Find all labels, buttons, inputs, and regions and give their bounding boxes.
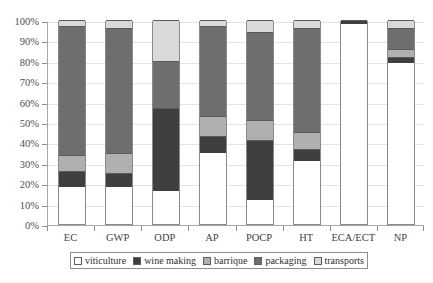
bar-segment-packaging <box>106 28 132 152</box>
x-axis-tick <box>236 226 237 231</box>
bar-np[interactable] <box>387 21 415 225</box>
legend-swatch-icon <box>74 257 82 265</box>
y-axis-label: 50% <box>0 118 39 129</box>
bar-gwp[interactable] <box>105 21 133 225</box>
bar-segment-viticulture <box>388 63 414 224</box>
bar-segment-transports <box>294 20 320 28</box>
bar-segment-viticulture <box>247 200 273 224</box>
bar-segment-transports <box>388 20 414 28</box>
bar-segment-barrique <box>388 49 414 57</box>
bar-segment-packaging <box>294 28 320 132</box>
x-axis: ECGWPODPAPPOCPHTECA/ECTNP <box>47 226 424 252</box>
y-axis-label: 10% <box>0 200 39 211</box>
legend-item-packaging[interactable]: packaging <box>254 255 306 266</box>
bar-segment-transports <box>59 20 85 26</box>
x-axis-label-np: NP <box>370 232 430 243</box>
bar-segment-barrique <box>247 120 273 140</box>
x-axis-tick <box>188 226 189 231</box>
bar-ec[interactable] <box>58 21 86 225</box>
legend-item-barrique[interactable]: barrique <box>203 255 247 266</box>
y-axis-label: 60% <box>0 98 39 109</box>
x-axis-tick <box>423 226 424 231</box>
y-axis-label: 40% <box>0 138 39 149</box>
bar-segment-viticulture <box>341 24 367 224</box>
legend-item-viticulture[interactable]: viticulture <box>74 255 126 266</box>
y-axis-label: 70% <box>0 77 39 88</box>
bar-segment-viticulture <box>153 191 179 224</box>
legend-swatch-icon <box>133 257 141 265</box>
bar-odp[interactable] <box>152 21 180 225</box>
bar-segment-wine-making <box>59 171 85 187</box>
bar-segment-viticulture <box>200 153 226 224</box>
bar-segment-wine-making <box>106 173 132 187</box>
stacked-bar-chart: 100%90%80%70%60%50%40%30%20%10%0% ECGWPO… <box>0 0 433 283</box>
chart-legend: viticulturewine makingbarriquepackagingt… <box>70 252 368 269</box>
legend-item-wine-making[interactable]: wine making <box>133 255 196 266</box>
bar-segment-barrique <box>106 153 132 173</box>
legend-label: barrique <box>214 255 247 266</box>
bar-segment-wine-making <box>247 140 273 199</box>
legend-label: wine making <box>144 255 196 266</box>
y-axis-label: 100% <box>0 16 39 27</box>
x-axis-tick <box>94 226 95 231</box>
bar-segment-wine-making <box>388 57 414 63</box>
chart-title <box>0 0 433 4</box>
bar-segment-packaging <box>200 26 226 116</box>
x-axis-tick <box>377 226 378 231</box>
legend-swatch-icon <box>314 257 322 265</box>
bar-ap[interactable] <box>199 21 227 225</box>
y-axis-label: 80% <box>0 57 39 68</box>
bar-segment-transports <box>200 20 226 26</box>
legend-label: packaging <box>265 255 306 266</box>
x-axis-tick <box>330 226 331 231</box>
bar-segment-viticulture <box>106 187 132 224</box>
y-axis-label: 0% <box>0 220 39 231</box>
bar-segment-barrique <box>200 116 226 136</box>
y-axis-label: 20% <box>0 179 39 190</box>
y-axis-label: 90% <box>0 36 39 47</box>
bar-segment-wine-making <box>200 136 226 152</box>
legend-item-transports[interactable]: transports <box>314 255 364 266</box>
legend-label: transports <box>325 255 364 266</box>
bar-segment-packaging <box>247 32 273 120</box>
bar-segment-packaging <box>388 28 414 48</box>
x-axis-tick <box>47 226 48 231</box>
y-axis-label: 30% <box>0 159 39 170</box>
bar-segment-packaging <box>153 61 179 108</box>
x-axis-tick <box>141 226 142 231</box>
bar-eca-ect[interactable] <box>340 21 368 225</box>
bar-segment-wine-making <box>341 20 367 24</box>
bar-segment-viticulture <box>294 161 320 224</box>
legend-swatch-icon <box>254 257 262 265</box>
legend-swatch-icon <box>203 257 211 265</box>
bar-pocp[interactable] <box>246 21 274 225</box>
bar-segment-wine-making <box>153 108 179 192</box>
plot-area <box>47 22 424 226</box>
x-axis-tick <box>283 226 284 231</box>
legend-label: viticulture <box>85 255 126 266</box>
bar-segment-viticulture <box>59 187 85 224</box>
bar-segment-barrique <box>294 132 320 148</box>
bar-ht[interactable] <box>293 21 321 225</box>
bar-segment-transports <box>106 20 132 28</box>
bar-segment-wine-making <box>294 149 320 161</box>
bar-segment-packaging <box>59 26 85 155</box>
bar-segment-barrique <box>59 155 85 171</box>
bar-segment-transports <box>153 20 179 61</box>
bar-segment-transports <box>247 20 273 32</box>
